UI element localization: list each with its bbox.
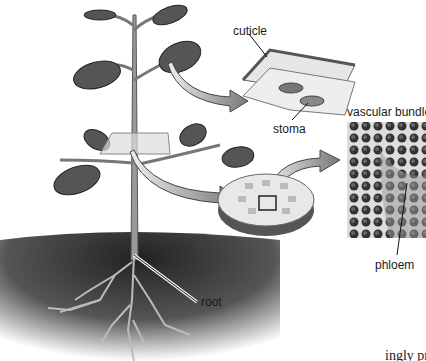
stem-cross-section bbox=[218, 174, 314, 236]
body-text-excerpt: ingly pr tophyte believed bbox=[385, 316, 426, 361]
leaf-cross-section bbox=[243, 50, 355, 115]
cuticle-label: cuticle bbox=[233, 24, 267, 38]
vascular-bundle-micrograph bbox=[347, 122, 426, 238]
vascular-bundle-label: vascular bundle bbox=[347, 105, 426, 119]
cross-section-plane bbox=[100, 133, 170, 154]
root-label: root bbox=[201, 295, 222, 309]
stoma-label: stoma bbox=[273, 122, 306, 136]
phloem-label: phloem bbox=[375, 258, 414, 272]
body-text-line: ingly pr bbox=[385, 348, 426, 361]
soil bbox=[0, 232, 280, 361]
